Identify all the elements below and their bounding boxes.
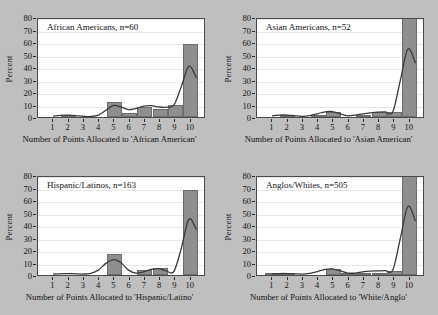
y-axis-tick-label: 40: [243, 64, 252, 73]
y-axis-tick-label: 40: [24, 222, 33, 231]
x-axis-title: Number of Points Allocated to 'White/Ang…: [219, 292, 438, 302]
y-axis-tick-mark: [252, 31, 255, 32]
y-axis-tick-label: 0: [247, 272, 251, 281]
y-axis-tick-mark: [252, 201, 255, 202]
x-axis-tick-label: 10: [185, 122, 194, 132]
y-axis-tick-mark: [252, 93, 255, 94]
density-curve-path: [53, 219, 196, 274]
y-axis-tick-label: 80: [24, 172, 33, 181]
x-axis-tick-label: 8: [376, 280, 380, 290]
x-axis-tick-label: 9: [391, 280, 395, 290]
chart-panel-african-americans: Percent0102030405060708012345678910Numbe…: [0, 0, 219, 157]
x-axis-tick-label: 6: [346, 280, 350, 290]
y-axis-tick-mark: [33, 68, 36, 69]
panel-title: Anglos/Whites, n=505: [266, 180, 348, 190]
y-axis-title-text: Percent: [4, 214, 14, 241]
panel-title: Asian Americans, n=52: [266, 22, 351, 32]
y-axis-ticks: 01020304050607080: [16, 176, 36, 276]
y-axis-tick-mark: [33, 31, 36, 32]
y-axis-tick-mark: [33, 239, 36, 240]
y-axis-ticks: 01020304050607080: [16, 18, 36, 118]
y-axis-tick-mark: [33, 81, 36, 82]
x-axis-tick-label: 7: [361, 280, 365, 290]
x-axis-tick-label: 2: [284, 122, 288, 132]
y-axis-tick-mark: [252, 226, 255, 227]
chart-panel-anglos-whites: Percent0102030405060708012345678910Numbe…: [219, 158, 438, 315]
y-axis-title-text: Percent: [223, 214, 233, 241]
y-axis-tick-mark: [252, 239, 255, 240]
x-axis-tick-label: 5: [111, 280, 115, 290]
y-axis-tick-label: 0: [28, 272, 32, 281]
panel-title: Hispanic/Latinos, n=163: [47, 180, 136, 190]
x-axis-tick-label: 8: [157, 280, 161, 290]
density-curve: [257, 177, 423, 275]
density-curve: [38, 177, 204, 275]
y-axis-tick-label: 70: [24, 26, 33, 35]
x-axis-tick-label: 2: [284, 280, 288, 290]
x-axis-tick-label: 7: [361, 122, 365, 132]
y-axis-tick-label: 10: [243, 259, 252, 268]
plot-area: [256, 18, 424, 118]
y-axis-tick-mark: [252, 106, 255, 107]
y-axis-tick-mark: [33, 106, 36, 107]
x-axis-tick-label: 5: [330, 280, 334, 290]
x-axis-tick-label: 10: [404, 122, 413, 132]
y-axis-tick-mark: [252, 81, 255, 82]
y-axis-tick-label: 70: [243, 184, 252, 193]
y-axis-tick-label: 80: [243, 172, 252, 181]
y-axis-tick-label: 60: [243, 197, 252, 206]
x-axis-tick-label: 1: [50, 280, 54, 290]
y-axis-tick-label: 10: [243, 101, 252, 110]
y-axis-tick-mark: [33, 43, 36, 44]
y-axis-tick-label: 60: [24, 197, 33, 206]
y-axis-tick-label: 60: [243, 39, 252, 48]
y-axis-tick-mark: [33, 189, 36, 190]
y-axis-tick-mark: [33, 251, 36, 252]
x-axis-tick-label: 7: [142, 280, 146, 290]
x-axis-title: Number of Points Allocated to 'Asian Ame…: [219, 134, 438, 144]
x-axis-title: Number of Points Allocated to 'Hispanic/…: [0, 292, 219, 302]
x-axis-tick-label: 3: [300, 280, 304, 290]
x-axis-tick-label: 2: [65, 122, 69, 132]
density-curve-path: [272, 206, 415, 274]
density-curve: [257, 19, 423, 117]
y-axis-tick-mark: [33, 93, 36, 94]
y-axis-tick-label: 30: [243, 234, 252, 243]
x-axis-tick-label: 10: [185, 280, 194, 290]
y-axis-tick-label: 0: [247, 114, 251, 123]
y-axis-tick-label: 30: [24, 76, 33, 85]
y-axis-ticks: 01020304050607080: [235, 18, 255, 118]
x-axis-tick-label: 3: [81, 280, 85, 290]
y-axis-title: Percent: [2, 192, 16, 262]
x-axis-tick-label: 5: [111, 122, 115, 132]
y-axis-tick-mark: [252, 276, 255, 277]
x-axis-ticks: 12345678910: [37, 119, 205, 131]
x-axis-tick-label: 2: [65, 280, 69, 290]
x-axis-ticks: 12345678910: [37, 277, 205, 289]
x-axis-tick-label: 4: [96, 280, 100, 290]
y-axis-title: Percent: [221, 34, 235, 104]
x-axis-tick-label: 3: [81, 122, 85, 132]
y-axis-tick-mark: [252, 214, 255, 215]
plot-area: [256, 176, 424, 276]
x-axis-tick-label: 3: [300, 122, 304, 132]
y-axis-tick-mark: [252, 18, 255, 19]
y-axis-tick-label: 40: [243, 222, 252, 231]
y-axis-tick-label: 80: [24, 14, 33, 23]
y-axis-tick-label: 20: [243, 89, 252, 98]
y-axis-tick-label: 50: [243, 209, 252, 218]
y-axis-tick-mark: [33, 56, 36, 57]
x-axis-tick-label: 8: [157, 122, 161, 132]
y-axis-title: Percent: [2, 34, 16, 104]
y-axis-title-text: Percent: [223, 56, 233, 83]
x-axis-tick-label: 8: [376, 122, 380, 132]
y-axis-tick-mark: [33, 276, 36, 277]
x-axis-tick-label: 6: [127, 280, 131, 290]
y-axis-tick-label: 10: [24, 101, 33, 110]
x-axis-tick-label: 1: [50, 122, 54, 132]
x-axis-tick-label: 9: [172, 122, 176, 132]
y-axis-tick-label: 20: [243, 247, 252, 256]
y-axis-tick-label: 30: [24, 234, 33, 243]
y-axis-tick-mark: [252, 43, 255, 44]
x-axis-ticks: 12345678910: [256, 119, 424, 131]
